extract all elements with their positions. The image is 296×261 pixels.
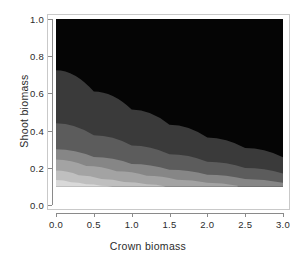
y-axis-tick [48,93,52,94]
filled-contour-image [56,19,283,205]
y-axis-title: Shoot biomass [18,41,30,181]
x-axis-tick-label: 2.0 [200,219,214,230]
y-axis-tick [48,168,52,169]
x-axis-tick [94,213,95,217]
y-axis-tick [48,19,52,20]
y-axis-tick [48,205,52,206]
y-axis-tick-label: 1.0 [30,14,44,25]
y-axis-tick-label: 0.4 [30,125,44,136]
x-axis-tick-label: 0.0 [49,219,63,230]
y-axis-tick [48,131,52,132]
plot-data-area [56,19,283,205]
x-axis-tick [170,213,171,217]
x-axis-title: Crown biomass [0,240,296,252]
y-axis-tick-label: 0.0 [30,200,44,211]
x-axis-tick-label: 0.5 [87,219,101,230]
contour-plot-figure: 0.00.51.01.52.02.53.0 0.00.20.40.60.81.0… [0,0,296,261]
x-axis-tick [283,213,284,217]
x-axis-tick [132,213,133,217]
x-axis-tick-label: 1.5 [162,219,176,230]
x-axis-tick [207,213,208,217]
x-axis-tick-label: 3.0 [276,219,290,230]
y-axis-tick-label: 0.2 [30,162,44,173]
y-axis-line [52,19,53,205]
x-axis-tick-label: 1.0 [125,219,139,230]
x-axis-tick-label: 2.5 [238,219,252,230]
x-axis-tick [56,213,57,217]
y-axis-tick-label: 0.6 [30,88,44,99]
y-axis-tick [48,56,52,57]
x-axis-tick [245,213,246,217]
y-axis-tick-label: 0.8 [30,51,44,62]
